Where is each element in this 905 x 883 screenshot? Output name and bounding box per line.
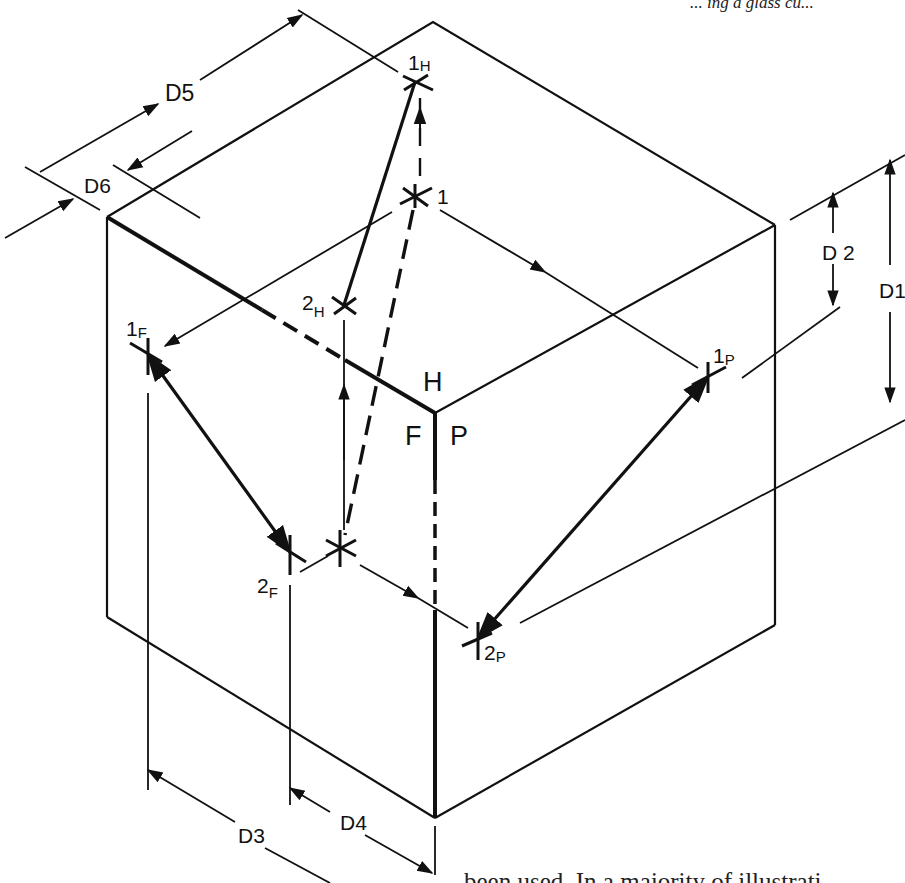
dim-label-d2: D 2 bbox=[822, 241, 855, 264]
marker-mid bbox=[326, 530, 356, 567]
face-label-p: P bbox=[450, 421, 468, 451]
point-labels: 1H 1 2H 1F 2F 1P 2P bbox=[126, 51, 735, 665]
label-1H: 1H bbox=[408, 51, 431, 74]
dim-label-d5: D5 bbox=[165, 80, 194, 106]
dashed-projector bbox=[345, 98, 420, 535]
marker-1H bbox=[403, 75, 433, 90]
dim-label-d6: D6 bbox=[84, 174, 111, 197]
label-1P: 1P bbox=[713, 344, 735, 368]
dimension-lines bbox=[5, 10, 890, 883]
cube-outline bbox=[107, 22, 775, 818]
label-2H: 2H bbox=[302, 291, 325, 320]
line-segments bbox=[148, 82, 708, 638]
front-top-edge bbox=[107, 217, 435, 413]
dim-label-d3: D3 bbox=[238, 824, 265, 847]
label-1F: 1F bbox=[126, 317, 147, 341]
face-label-h: H bbox=[423, 367, 443, 397]
page-text-bottom: been used. In a majority of illustrati bbox=[464, 868, 822, 883]
label-1: 1 bbox=[437, 185, 449, 208]
label-2F: 2F bbox=[257, 574, 278, 601]
cube-projection-diagram: ... ing a glass cu... bbox=[0, 0, 905, 883]
marker-1 bbox=[400, 184, 432, 208]
face-label-f: F bbox=[405, 421, 422, 451]
dim-label-d1: D1 bbox=[879, 279, 905, 302]
label-2P: 2P bbox=[484, 641, 506, 665]
marker-2H bbox=[332, 297, 356, 314]
page-text-top: ... ing a glass cu... bbox=[690, 0, 814, 12]
dim-label-d4: D4 bbox=[340, 811, 367, 834]
